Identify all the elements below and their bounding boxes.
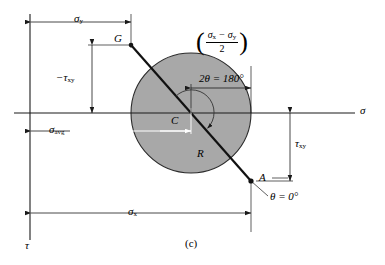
tau-axis-label: τ (25, 240, 29, 251)
two-theta-label: 2θ = 180° (199, 73, 244, 84)
fraction-denominator: 2 (219, 43, 224, 54)
fraction-numerator: σx − σy (206, 30, 239, 42)
figure-caption: (c) (185, 238, 197, 249)
left-paren: ( (196, 32, 205, 53)
sigma-difference-fraction-label: ( σx − σy 2 ) (196, 30, 248, 54)
right-paren: ) (239, 32, 248, 53)
point-A-label: A (259, 172, 266, 183)
sigma-axis-label: σ (360, 105, 365, 116)
neg-tau-xy-label: −τxy (56, 72, 74, 84)
tau-xy-label: τxy (295, 138, 306, 150)
radius-label: R (197, 148, 204, 159)
theta-zero-label: θ = 0° (270, 191, 298, 202)
sigma-y-label: σy (74, 13, 83, 25)
sigma-x-label: σx (128, 206, 137, 218)
theta-zero-leader (251, 181, 268, 196)
sigma-avg-label: σavg (49, 124, 65, 136)
point-C-label: C (171, 115, 178, 126)
point-G-label: G (114, 33, 122, 44)
